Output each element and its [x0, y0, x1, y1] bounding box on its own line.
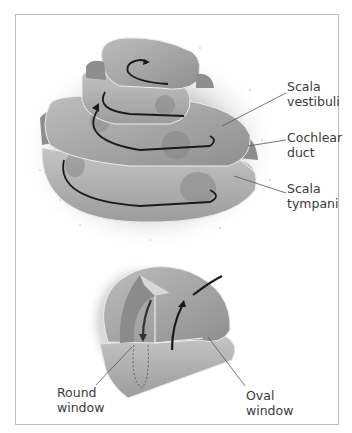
label-scala-vestibuli: Scala vestibuli	[287, 79, 340, 109]
label-round-window: Round window	[57, 385, 104, 415]
label-oval-window: Oval window	[246, 388, 293, 418]
cochlea-illustration	[0, 0, 352, 433]
label-scala-tympani: Scala tympani	[287, 181, 338, 211]
label-cochlear-duct: Cochlear duct	[287, 130, 342, 160]
cochlea-base-diagram	[86, 260, 245, 398]
cochlea-spiral-diagram	[22, 38, 286, 250]
